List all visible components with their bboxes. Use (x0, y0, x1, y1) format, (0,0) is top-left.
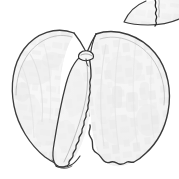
seed-illustration-canvas (0, 0, 179, 179)
botanical-figure: Botanical line drawing of a split seed s… (0, 0, 179, 179)
